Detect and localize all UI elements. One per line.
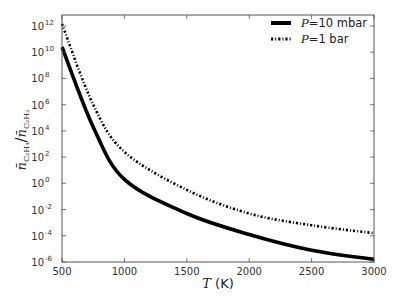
y-axis-label: n̄C₂H₄/n̄C₂H₂ [12, 110, 31, 171]
y-tick-label: 1012 [31, 19, 54, 32]
curve-p-1-bar [62, 24, 374, 233]
chart: 50010001500200025003000 1012101010810610… [0, 0, 404, 304]
x-tick-label: 2000 [236, 266, 261, 277]
y-axis-ticks: 1012101010810610410210010-210-410-6 [31, 19, 374, 268]
y-tick-label: 10-6 [31, 255, 52, 268]
legend: P=10 mbarP=1 bar [271, 16, 367, 46]
svg-text:n̄C₂H₄/n̄C₂H₂: n̄C₂H₄/n̄C₂H₂ [12, 110, 31, 171]
x-tick-label: 1000 [112, 266, 137, 277]
y-label-numerator-sub: C₂H₄ [22, 143, 31, 163]
y-tick-label: 100 [31, 176, 49, 189]
x-axis-var: T [202, 276, 212, 291]
y-tick-label: 10-2 [31, 203, 52, 216]
legend-label: P=1 bar [300, 32, 349, 46]
y-tick-label: 104 [31, 124, 50, 137]
y-tick-label: 10-4 [31, 229, 52, 242]
y-label-numerator: n̄ [14, 162, 29, 170]
x-tick-label: 1500 [174, 266, 199, 277]
x-tick-label: 3000 [361, 266, 386, 277]
y-tick-label: 108 [31, 71, 49, 84]
y-tick-label: 102 [31, 150, 49, 163]
y-label-denominator: n̄ [14, 129, 29, 137]
data-curves [62, 24, 374, 259]
y-tick-label: 106 [31, 98, 50, 111]
x-tick-label: 500 [52, 266, 71, 277]
x-tick-label: 2500 [299, 266, 324, 277]
x-axis-label: T (K) [202, 276, 233, 291]
curve-p-10-mbar [62, 47, 374, 259]
x-axis-unit: (K) [215, 276, 234, 291]
y-tick-label: 1010 [31, 45, 54, 58]
legend-label: P=10 mbar [300, 16, 367, 30]
y-label-denominator-sub: C₂H₂ [22, 110, 31, 130]
